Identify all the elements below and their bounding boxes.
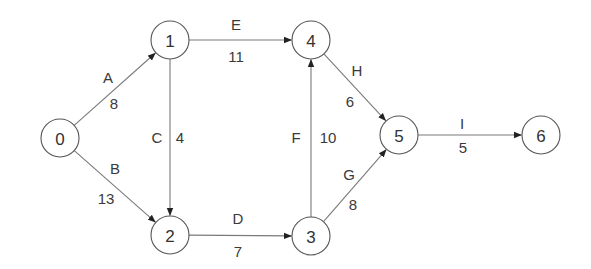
edge-activity-label: B bbox=[110, 160, 120, 177]
node-label: 5 bbox=[394, 127, 403, 146]
edge-a-arrow bbox=[74, 53, 155, 125]
edge-d-arrow bbox=[189, 235, 292, 236]
node-5: 5 bbox=[380, 116, 418, 154]
node-label: 2 bbox=[165, 227, 174, 246]
edge-activity-label: H bbox=[352, 62, 363, 79]
node-0: 0 bbox=[41, 119, 79, 157]
node-3: 3 bbox=[292, 217, 330, 255]
edge-activity-label: I bbox=[460, 115, 464, 132]
node-label: 1 bbox=[165, 32, 174, 51]
edge-duration-label: 8 bbox=[349, 196, 357, 213]
edge-duration-label: 8 bbox=[110, 95, 118, 112]
node-6: 6 bbox=[522, 116, 560, 154]
edge-duration-label: 10 bbox=[320, 129, 337, 146]
edge-activity-label: C bbox=[152, 129, 163, 146]
edge-activity-label: A bbox=[103, 69, 113, 86]
edge-duration-label: 6 bbox=[346, 93, 354, 110]
edge-activity-label: F bbox=[291, 129, 300, 146]
node-2: 2 bbox=[151, 216, 189, 254]
edge-duration-label: 4 bbox=[176, 129, 184, 146]
edge-duration-label: 11 bbox=[228, 48, 244, 65]
edge-duration-label: 5 bbox=[459, 139, 467, 156]
node-label: 3 bbox=[306, 228, 315, 247]
edge-duration-label: 13 bbox=[98, 190, 115, 207]
node-label: 6 bbox=[536, 127, 545, 146]
node-1: 1 bbox=[151, 21, 189, 59]
node-label: 4 bbox=[306, 32, 315, 51]
edge-activity-label: G bbox=[343, 166, 355, 183]
edge-duration-label: 7 bbox=[234, 243, 242, 260]
edge-activity-label: D bbox=[233, 210, 244, 227]
node-label: 0 bbox=[55, 130, 64, 149]
edge-activity-label: E bbox=[231, 16, 241, 33]
node-4: 4 bbox=[292, 21, 330, 59]
activity-network-diagram: 0123456 A8B13C4E11D7F10H6G8I5 bbox=[0, 0, 591, 269]
